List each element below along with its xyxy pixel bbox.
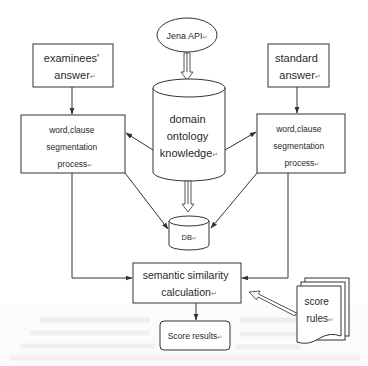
svg-text:Score results↵: Score results↵ — [168, 331, 223, 341]
svg-text:DB↵: DB↵ — [181, 233, 196, 242]
svg-text:Jena API↵: Jena API↵ — [166, 31, 207, 41]
left-segmentation-node: word,clause segmentation process↵ — [21, 115, 125, 173]
ontology-to-db-arrow — [182, 181, 194, 212]
score-results-node: Score results↵ — [160, 321, 230, 350]
jena-api-label: Jena API — [166, 31, 202, 41]
right-segmentation-to-db-arrow — [211, 173, 257, 228]
db-node: DB↵ — [169, 216, 209, 250]
examinees-answer-node: examinees' answer↵ — [33, 44, 113, 87]
score-rules-node: score rules↵ — [297, 278, 349, 343]
semantic-similarity-node: semantic similarity calculation↵ — [133, 263, 241, 303]
left-segmentation-to-semantic-arrow — [72, 173, 132, 278]
domain-ontology-knowledge-node: domain ontology knowledge↵ — [153, 79, 225, 181]
ontology-to-left-segmentation-arrow — [126, 133, 153, 150]
ontology-to-right-segmentation-arrow — [225, 132, 256, 150]
score-results-label: Score results — [168, 331, 218, 341]
standard-answer-node: standard answer↵ — [268, 44, 329, 87]
db-label: DB — [181, 233, 191, 242]
jena-api-node: Jena API↵ — [157, 18, 217, 52]
left-segmentation-to-db-arrow — [125, 173, 168, 229]
right-segmentation-node: word,clause segmentation process↵ — [257, 114, 345, 173]
flowchart-diagram: Jena API↵ domain ontology knowledge↵ exa… — [0, 0, 368, 366]
right-segmentation-to-semantic-arrow — [242, 173, 288, 278]
jena-to-ontology-arrow — [181, 53, 193, 80]
